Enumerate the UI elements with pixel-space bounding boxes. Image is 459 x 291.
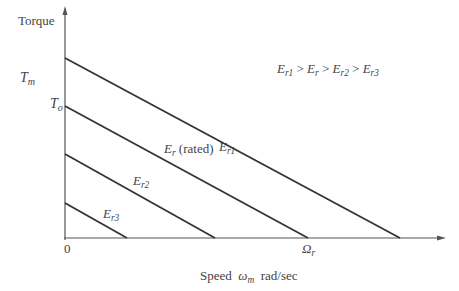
line-er2: [65, 154, 215, 238]
line-label-er-rated: Er (rated): [164, 141, 213, 158]
line-er-rated: [65, 106, 308, 238]
y-axis-arrow: [63, 6, 68, 15]
line-label-er1: Er1: [219, 139, 235, 156]
line-label-er2: Er2: [133, 173, 149, 190]
omega-r-label: Ωr: [302, 241, 315, 258]
tm-label: Tm: [20, 70, 35, 87]
x-axis-arrow: [437, 236, 446, 241]
line-label-er3: Er3: [103, 206, 119, 223]
to-label: To: [50, 96, 63, 113]
y-axis-label: Torque: [18, 13, 55, 29]
origin-label: 0: [64, 241, 71, 257]
x-axis-label: Speed ωm rad/sec: [200, 268, 298, 285]
relation-label: Er1 > Er > Er2 > Er3: [277, 61, 379, 78]
